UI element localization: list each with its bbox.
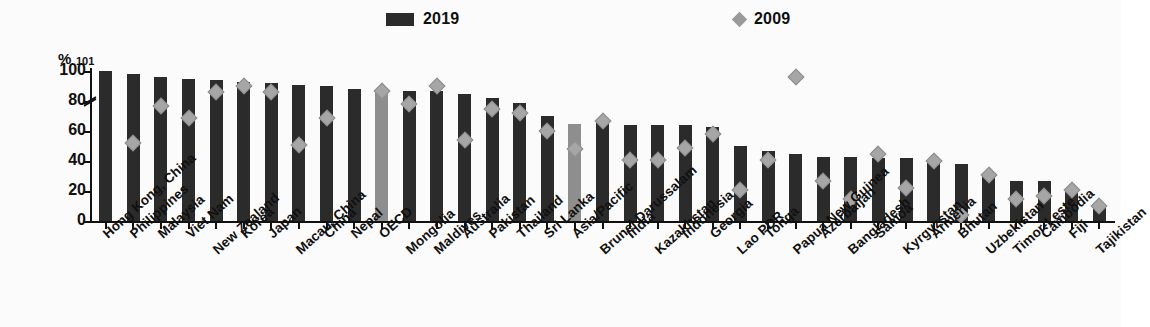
x-tick-mark <box>657 223 659 229</box>
x-tick-mark <box>270 223 272 229</box>
x-tick-mark <box>188 223 190 229</box>
x-tick-mark <box>629 223 631 229</box>
x-tick-mark <box>988 223 990 229</box>
x-tick-mark <box>684 223 686 229</box>
x-tick-mark <box>105 223 107 229</box>
x-tick-mark <box>491 223 493 229</box>
x-tick-mark <box>326 223 328 229</box>
x-tick-mark <box>160 223 162 229</box>
x-tick-mark <box>546 223 548 229</box>
x-tick-mark <box>905 223 907 229</box>
x-tick-mark <box>739 223 741 229</box>
x-tick-mark <box>215 223 217 229</box>
y-tick-mark <box>84 131 91 133</box>
x-tick-mark <box>519 223 521 229</box>
x-tick-mark <box>436 223 438 229</box>
x-tick-mark <box>1043 223 1045 229</box>
x-tick-mark <box>795 223 797 229</box>
x-tick-mark <box>243 223 245 229</box>
x-tick-mark <box>822 223 824 229</box>
x-tick-mark <box>1015 223 1017 229</box>
x-tick-mark <box>933 223 935 229</box>
x-tick-mark <box>574 223 576 229</box>
y-tick-mark <box>84 161 91 163</box>
x-tick-mark <box>132 223 134 229</box>
x-tick-mark <box>1098 223 1100 229</box>
x-tick-mark <box>877 223 879 229</box>
x-tick-mark <box>298 223 300 229</box>
x-tick-mark <box>712 223 714 229</box>
y-tick-mark <box>84 221 91 223</box>
x-tick-mark <box>1071 223 1073 229</box>
x-tick-mark <box>850 223 852 229</box>
x-category-label: Tajikistan <box>1093 204 1149 257</box>
y-tick-mark <box>84 191 91 193</box>
x-tick-mark <box>960 223 962 229</box>
y-tick-mark <box>84 71 91 73</box>
x-tick-mark <box>602 223 604 229</box>
x-tick-mark <box>381 223 383 229</box>
x-tick-mark <box>408 223 410 229</box>
x-tick-mark <box>353 223 355 229</box>
x-tick-mark <box>767 223 769 229</box>
y-tick-mark <box>84 101 91 103</box>
x-tick-mark <box>464 223 466 229</box>
